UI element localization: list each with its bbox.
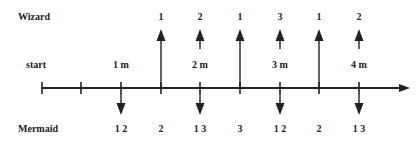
distance-label: 4 m [351, 59, 368, 70]
down-arrow-icon [196, 103, 205, 115]
wizard-jump-label: 3 [278, 11, 283, 22]
mermaid-jump-label: 2 [159, 123, 164, 134]
distance-label: 3 m [272, 59, 289, 70]
axis-arrowhead-icon [399, 84, 410, 92]
up-arrow-icon [236, 29, 245, 41]
distance-label: 1 m [113, 59, 130, 70]
wizard-jump-label: 2 [357, 11, 362, 22]
up-arrow-icon [276, 29, 285, 41]
mermaid-jumps: 1 221 331 221 3 [115, 94, 366, 134]
distance-label: 2 m [192, 59, 209, 70]
up-arrow-icon [355, 29, 364, 41]
wizard-jump-label: 1 [317, 11, 322, 22]
mermaid-jump-label: 1 2 [274, 123, 287, 134]
down-arrow-icon [117, 103, 126, 115]
up-arrow-icon [196, 29, 205, 41]
mermaid-jump-label: 1 2 [115, 123, 128, 134]
up-arrow-icon [157, 29, 166, 41]
up-arrow-icon [315, 29, 324, 41]
down-arrow-icon [276, 103, 285, 115]
mermaid-jump-label: 2 [317, 123, 322, 134]
wizard-jump-label: 1 [238, 11, 243, 22]
start-label: start [26, 59, 47, 70]
mermaid-jump-label: 1 3 [194, 123, 207, 134]
wizard-jumps: 121312 [157, 11, 364, 88]
down-arrow-icon [355, 103, 364, 115]
mermaid-row-label: Mermaid [18, 123, 58, 134]
wizard-jump-label: 2 [198, 11, 203, 22]
mermaid-jump-label: 3 [238, 123, 243, 134]
number-line-axis [42, 82, 410, 94]
wizard-jump-label: 1 [159, 11, 164, 22]
wizard-row-label: Wizard [18, 11, 50, 22]
mermaid-jump-label: 1 3 [353, 123, 366, 134]
wizard-mermaid-number-line-diagram: Wizard start Mermaid 1 m2 m3 m4 m 121312… [0, 0, 420, 142]
